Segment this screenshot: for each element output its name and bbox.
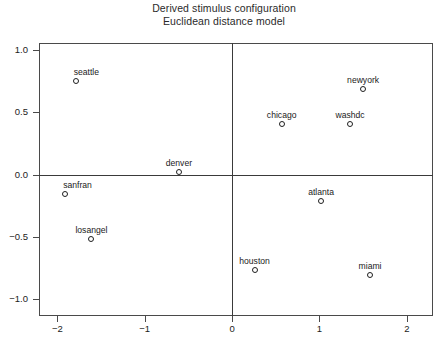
data-point-newyork: [360, 86, 366, 92]
y-axis-tick: [33, 237, 39, 238]
x-axis-tick: [319, 316, 320, 322]
x-axis-tick: [57, 316, 58, 322]
y-axis-tick-label: 0.0: [0, 170, 28, 180]
data-point-denver: [176, 169, 182, 175]
data-point-label-denver: denver: [166, 159, 192, 168]
y-axis-tick: [33, 50, 39, 51]
x-axis-tick-label: −1: [130, 324, 160, 334]
axis-line-horizontal: [39, 175, 433, 176]
data-point-label-seattle: seattle: [74, 68, 99, 77]
data-point-label-miami: miami: [359, 262, 382, 271]
data-point-houston: [252, 267, 258, 273]
data-point-label-newyork: newyork: [347, 76, 379, 85]
data-point-label-losangel: losangel: [75, 226, 107, 235]
y-axis-tick: [33, 175, 39, 176]
x-axis-tick-label: 0: [217, 324, 247, 334]
data-point-label-chicago: chicago: [267, 111, 297, 120]
data-point-label-washdc: washdc: [336, 111, 365, 120]
data-point-atlanta: [318, 198, 324, 204]
y-axis-tick: [33, 112, 39, 113]
chart-title-block: Derived stimulus configuration Euclidean…: [0, 2, 448, 28]
y-axis-tick-label: −0.5: [0, 232, 28, 242]
y-axis-tick-label: 0.5: [0, 107, 28, 117]
x-axis-tick: [145, 316, 146, 322]
data-point-chicago: [279, 121, 285, 127]
x-axis-tick-label: 2: [392, 324, 422, 334]
y-axis-tick-label: −1.0: [0, 294, 28, 304]
axis-line-vertical: [232, 43, 233, 316]
x-axis-tick-label: 1: [304, 324, 334, 334]
x-axis-tick: [232, 316, 233, 322]
x-axis-tick-label: −2: [42, 324, 72, 334]
data-point-washdc: [347, 121, 353, 127]
data-point-label-sanfran: sanfran: [63, 181, 92, 190]
data-point-label-atlanta: atlanta: [308, 188, 334, 197]
y-axis-tick: [33, 299, 39, 300]
data-point-label-houston: houston: [239, 257, 270, 266]
y-axis-tick-label: 1.0: [0, 45, 28, 55]
chart-subtitle: Euclidean distance model: [0, 15, 448, 28]
x-axis-tick: [407, 316, 408, 322]
chart-title: Derived stimulus configuration: [0, 2, 448, 15]
chart-container: Derived stimulus configuration Euclidean…: [0, 0, 448, 346]
